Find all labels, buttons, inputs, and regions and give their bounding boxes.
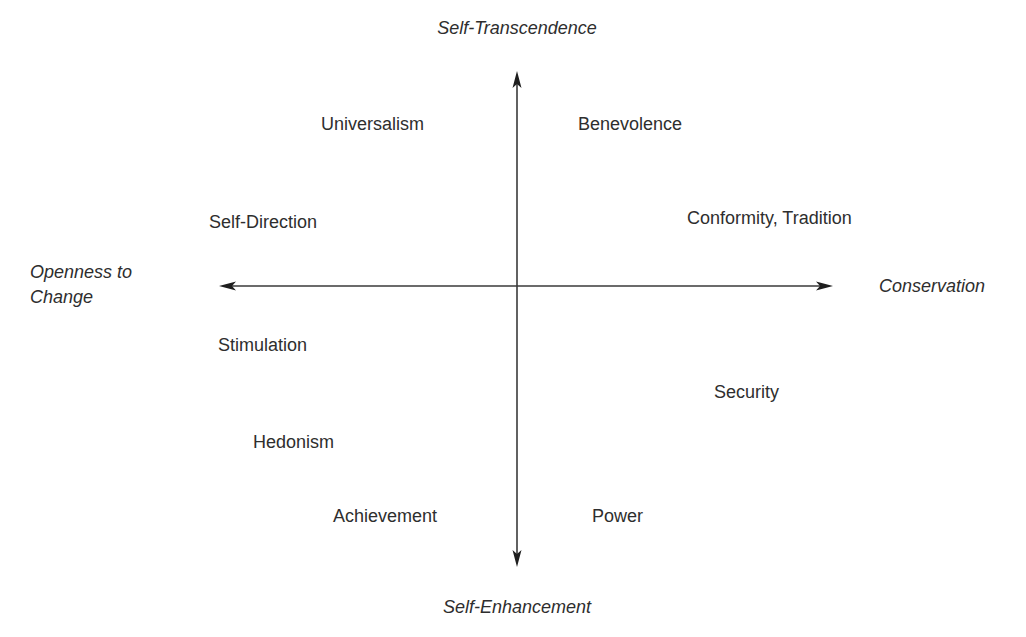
value-label-security: Security [714, 381, 779, 403]
value-label-conformity-tradition: Conformity, Tradition [687, 207, 852, 229]
value-label-achievement: Achievement [333, 505, 437, 527]
value-label-benevolence: Benevolence [578, 113, 682, 135]
pole-label-self-enhancement: Self-Enhancement [443, 596, 591, 618]
pole-label-openness-line1: Openness to [30, 261, 132, 283]
value-label-power: Power [592, 505, 643, 527]
value-label-stimulation: Stimulation [218, 334, 307, 356]
vertical-axis [513, 71, 522, 567]
axes [0, 0, 1026, 637]
pole-label-openness-line2: Change [30, 286, 93, 308]
horizontal-axis [219, 282, 833, 291]
value-label-universalism: Universalism [321, 113, 424, 135]
pole-label-conservation: Conservation [879, 275, 985, 297]
values-quadrant-diagram: Self-Transcendence Self-Enhancement Open… [0, 0, 1026, 637]
pole-label-self-transcendence: Self-Transcendence [437, 17, 597, 39]
value-label-hedonism: Hedonism [253, 431, 334, 453]
value-label-self-direction: Self-Direction [209, 211, 317, 233]
